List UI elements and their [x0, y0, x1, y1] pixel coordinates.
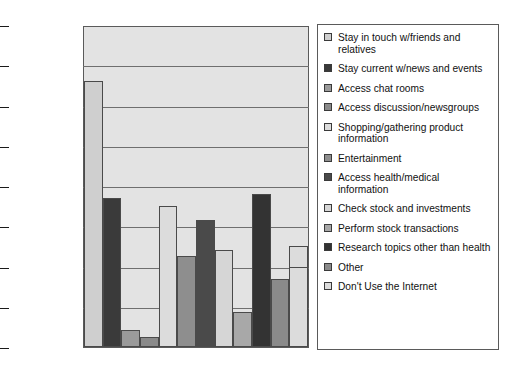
legend-item-label: Don't Use the Internet — [338, 281, 437, 293]
bar — [215, 250, 234, 347]
bar — [271, 279, 290, 347]
legend-swatch-icon — [324, 173, 332, 181]
bar-series — [84, 27, 308, 347]
bar — [159, 206, 178, 347]
bar — [289, 246, 308, 347]
chart-legend: Stay in touch w/friends and relativesSta… — [317, 24, 499, 350]
legend-item-label: Other — [338, 262, 363, 274]
y-axis-tick-mark — [0, 66, 9, 67]
bar — [121, 330, 140, 347]
legend-item[interactable]: Don't Use the Internet — [324, 281, 492, 293]
bar-chart: 80.00%70.00%60.00%50.00%40.00%30.00%20.0… — [0, 0, 511, 373]
bar — [84, 81, 103, 347]
legend-item[interactable]: Entertainment — [324, 153, 492, 165]
bar — [252, 194, 271, 347]
legend-item[interactable]: Access chat rooms — [324, 83, 492, 95]
y-axis-tick-mark — [0, 268, 9, 269]
legend-item-label: Perform stock transactions — [338, 223, 459, 235]
legend-item[interactable]: Stay in touch w/friends and relatives — [324, 32, 492, 55]
legend-item[interactable]: Access health/medical information — [324, 172, 492, 195]
legend-item-label: Entertainment — [338, 153, 401, 165]
legend-swatch-icon — [324, 154, 332, 162]
legend-swatch-icon — [324, 282, 332, 290]
y-axis: 80.00%70.00%60.00%50.00%40.00%30.00%20.0… — [0, 0, 83, 373]
legend-item[interactable]: Access discussion/newsgroups — [324, 102, 492, 114]
legend-swatch-icon — [324, 263, 332, 271]
y-axis-tick-mark — [0, 227, 9, 228]
legend-swatch-icon — [324, 224, 332, 232]
bar — [196, 220, 215, 347]
y-axis-tick-mark — [0, 26, 9, 27]
bar — [103, 198, 122, 347]
legend-item[interactable]: Shopping/gathering product information — [324, 122, 492, 145]
legend-item-label: Research topics other than health — [338, 242, 490, 254]
bar-inner-segment — [289, 267, 308, 348]
legend-item[interactable]: Perform stock transactions — [324, 223, 492, 235]
bar — [140, 337, 159, 347]
y-axis-tick-mark — [0, 187, 9, 188]
y-axis-tick-mark — [0, 147, 9, 148]
legend-swatch-icon — [324, 243, 332, 251]
legend-swatch-icon — [324, 204, 332, 212]
legend-item[interactable]: Check stock and investments — [324, 203, 492, 215]
y-axis-tick-mark — [0, 348, 9, 349]
legend-item-label: Access health/medical information — [338, 172, 492, 195]
legend-item-label: Stay current w/news and events — [338, 63, 482, 75]
plot-area — [83, 26, 309, 348]
bar — [177, 256, 196, 347]
legend-swatch-icon — [324, 103, 332, 111]
y-axis-tick-mark — [0, 308, 9, 309]
legend-swatch-icon — [324, 33, 332, 41]
bar — [233, 312, 252, 347]
legend-item[interactable]: Research topics other than health — [324, 242, 492, 254]
legend-swatch-icon — [324, 123, 332, 131]
legend-item-label: Access discussion/newsgroups — [338, 102, 479, 114]
y-axis-tick-mark — [0, 107, 9, 108]
legend-item-label: Stay in touch w/friends and relatives — [338, 32, 492, 55]
legend-swatch-icon — [324, 64, 332, 72]
legend-swatch-icon — [324, 84, 332, 92]
legend-item[interactable]: Other — [324, 262, 492, 274]
legend-item-label: Access chat rooms — [338, 83, 424, 95]
legend-item[interactable]: Stay current w/news and events — [324, 63, 492, 75]
legend-item-label: Shopping/gathering product information — [338, 122, 492, 145]
legend-item-label: Check stock and investments — [338, 203, 471, 215]
